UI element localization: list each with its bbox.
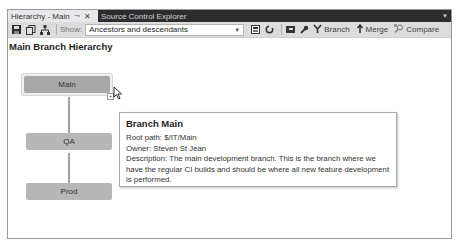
node-label: Prod xyxy=(61,187,78,196)
show-dropdown[interactable]: Ancestors and descendants ▼ xyxy=(85,24,244,36)
tooltip-owner: Owner: Steven St Jean xyxy=(126,144,390,155)
tab-label: Hierarchy - Main xyxy=(11,12,70,21)
close-icon[interactable]: ✕ xyxy=(84,12,91,21)
hierarchy-window: Hierarchy - Main ⊸ ✕ Source Control Expl… xyxy=(7,9,452,239)
node-label: Main xyxy=(58,80,75,89)
tab-label: Source Control Explorer xyxy=(101,12,186,21)
toolbar: Show: Ancestors and descendants ▼ Branch xyxy=(8,22,451,38)
merge-icon xyxy=(356,24,364,35)
toolbar-separator xyxy=(281,24,282,35)
branch-node-qa[interactable]: QA xyxy=(26,133,112,150)
branch-button[interactable]: Branch xyxy=(313,24,349,35)
tab-bar: Hierarchy - Main ⊸ ✕ Source Control Expl… xyxy=(8,10,451,22)
branch-node-main[interactable]: Main xyxy=(24,76,110,93)
branch-node-prod[interactable]: Prod xyxy=(26,183,112,200)
node-label: QA xyxy=(63,137,75,146)
chevron-down-icon: ▼ xyxy=(234,27,240,33)
compare-label: Compare xyxy=(406,25,439,34)
show-label: Show: xyxy=(60,25,82,34)
hierarchy-canvas: Main + QA Prod Branch Main Root path: $/… xyxy=(10,53,451,238)
connector-line xyxy=(68,97,70,135)
branch-tooltip: Branch Main Root path: $/IT/Main Owner: … xyxy=(119,112,397,187)
copy-icon[interactable] xyxy=(25,24,36,35)
properties-icon[interactable] xyxy=(250,24,261,35)
tooltip-title: Branch Main xyxy=(126,118,390,129)
connector-line xyxy=(68,153,70,185)
refresh-icon[interactable] xyxy=(264,24,275,35)
tab-source-control-explorer[interactable]: Source Control Explorer xyxy=(98,10,186,22)
tooltip-root-path: Root path: $/IT/Main xyxy=(126,133,390,144)
branch-node-main-selection[interactable]: Main xyxy=(21,73,113,96)
tab-dropdown-icon[interactable]: ▼ xyxy=(442,13,448,19)
merge-label: Merge xyxy=(366,25,389,34)
compare-button[interactable]: Compare xyxy=(394,24,439,35)
hierarchy-icon[interactable] xyxy=(39,24,50,35)
merge-button[interactable]: Merge xyxy=(356,24,389,35)
compare-icon xyxy=(394,24,404,35)
page-title: Main Branch Hierarchy xyxy=(9,41,112,52)
wrench-icon[interactable] xyxy=(299,24,310,35)
mouse-cursor-icon xyxy=(113,86,123,102)
pin-icon[interactable]: ⊸ xyxy=(74,12,80,20)
show-dropdown-value: Ancestors and descendants xyxy=(89,25,188,34)
branch-node-prod-wrapper: Prod xyxy=(26,183,112,200)
tab-hierarchy-main[interactable]: Hierarchy - Main ⊸ ✕ xyxy=(8,10,98,22)
branch-label: Branch xyxy=(324,25,349,34)
branch-icon xyxy=(313,24,322,35)
open-folder-icon[interactable] xyxy=(285,24,296,35)
toolbar-separator xyxy=(56,24,57,35)
save-icon[interactable] xyxy=(11,24,22,35)
branch-node-qa-wrapper: QA xyxy=(26,133,112,150)
tooltip-description: Description: The main development branch… xyxy=(126,154,390,186)
